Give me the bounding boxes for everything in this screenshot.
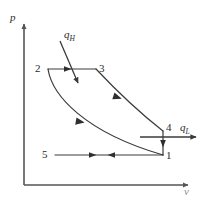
x-axis-label: v	[184, 186, 189, 197]
q-h-label: qH	[64, 29, 75, 40]
y-axis-label: p	[10, 12, 16, 23]
state-label-3: 3	[99, 63, 105, 74]
state-label-4: 4	[166, 122, 172, 133]
cycle-paths	[48, 69, 163, 155]
axis-group	[24, 24, 188, 185]
arrowhead-2-3-right	[64, 66, 72, 72]
arrowhead-5-1-left	[108, 152, 116, 158]
arrowhead-5-1-right	[89, 152, 97, 158]
q-h-arrow	[60, 41, 78, 83]
process-3-4-curve	[96, 69, 163, 131]
state-label-5: 5	[42, 149, 48, 160]
q-l-subscript: L	[186, 127, 190, 136]
q-h-subscript: H	[70, 34, 75, 43]
q-h-symbol: q	[64, 28, 70, 40]
process-direction-arrowheads	[64, 66, 166, 158]
state-label-2: 2	[35, 63, 41, 74]
q-l-symbol: q	[180, 121, 186, 133]
q-l-label: qL	[180, 122, 190, 133]
arrowhead-1-2-downright	[75, 118, 84, 125]
pv-diagram-canvas	[0, 0, 212, 204]
state-label-1: 1	[166, 150, 172, 161]
pv-diagram-figure: p v 2 3 4 1 5 qH qL	[0, 0, 212, 204]
process-1-2-curve	[48, 69, 163, 155]
arrowhead-4-1-down	[160, 140, 166, 148]
